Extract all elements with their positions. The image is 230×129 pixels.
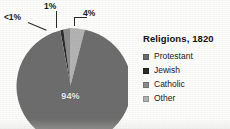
chart-legend: Religions, 1820 Protestant Jewish Cathol… bbox=[143, 33, 227, 107]
legend-label-catholic: Catholic bbox=[154, 79, 185, 90]
pie-svg bbox=[13, 28, 128, 129]
pie-chart-figure: 94% <1% 1% 4% Religions, 1820 Protestant… bbox=[0, 0, 230, 129]
legend-label-other: Other bbox=[154, 93, 175, 104]
pie-callout-jewish: <1% bbox=[4, 12, 21, 22]
legend-swatch-icon-other bbox=[143, 96, 149, 102]
legend-label-protestant: Protestant bbox=[154, 51, 193, 62]
legend-item-catholic: Catholic bbox=[143, 79, 227, 90]
pie-callout-other: 4% bbox=[83, 8, 95, 18]
legend-item-protestant: Protestant bbox=[143, 51, 227, 62]
legend-swatch-icon-protestant bbox=[143, 54, 149, 60]
legend-swatch-icon-catholic bbox=[143, 82, 149, 88]
legend-label-jewish: Jewish bbox=[154, 65, 180, 76]
leader-line-other-stem bbox=[74, 17, 75, 26]
legend-list: Protestant Jewish Catholic Other bbox=[143, 51, 227, 104]
pie-chart-graphic: 94% bbox=[13, 28, 128, 129]
legend-item-other: Other bbox=[143, 93, 227, 104]
legend-item-jewish: Jewish bbox=[143, 65, 227, 76]
pie-slice-label-protestant: 94% bbox=[13, 91, 128, 101]
legend-swatch-icon-jewish bbox=[143, 68, 149, 74]
chart-title: Religions, 1820 bbox=[143, 33, 227, 44]
leader-line-catholic bbox=[56, 11, 57, 28]
pie-callout-catholic: 1% bbox=[44, 1, 56, 11]
